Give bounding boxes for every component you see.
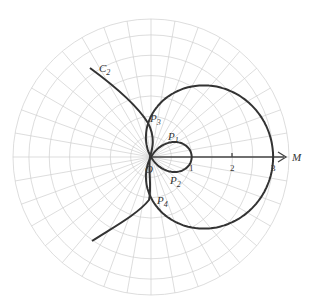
point-p2-label: P2 xyxy=(169,174,181,189)
tick-label-2: 2 xyxy=(230,163,235,173)
tick-label-1: 1 xyxy=(189,163,194,173)
origin-label: O xyxy=(145,163,153,175)
axis-label: M xyxy=(291,151,302,163)
tick-label-3: 3 xyxy=(271,163,276,173)
polar-diagram: C2 P3 P1 P2 P4 O M 1 2 3 xyxy=(0,0,313,308)
